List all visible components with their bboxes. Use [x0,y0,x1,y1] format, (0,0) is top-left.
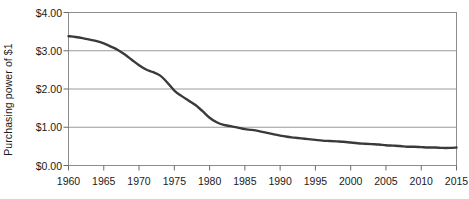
x-tick-label: 1975 [163,176,186,187]
x-tick-label: 1990 [268,176,291,187]
x-tick-label: 2015 [445,176,468,187]
x-tick-label: 1995 [304,176,327,187]
purchasing-power-chart: Purchasing power of $1 $0.00$1.00$2.00$3… [0,0,469,199]
x-tick-label: 2000 [339,176,362,187]
x-tick-label: 1965 [92,176,115,187]
x-tick-label: 1985 [233,176,256,187]
x-tick-label: 1980 [198,176,221,187]
x-tick-label: 2010 [410,176,433,187]
x-tick-label: 2005 [374,176,397,187]
x-tick-label: 1960 [57,176,80,187]
x-axis-tick-labels: 1960196519701975198019851990199520002005… [0,0,469,199]
x-tick-label: 1970 [127,176,150,187]
